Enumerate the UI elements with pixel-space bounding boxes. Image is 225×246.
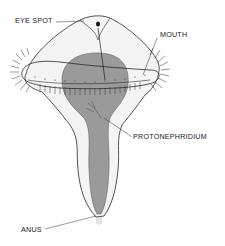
label-mouth: MOUTH — [160, 30, 187, 39]
label-anus: ANUS — [21, 225, 42, 234]
label-protonephridium: PROTONEPHRIDIUM — [133, 132, 207, 141]
trochophore-diagram — [0, 0, 225, 246]
label-eye-spot: EYE SPOT — [15, 16, 53, 25]
eye-spot-icon — [96, 21, 100, 26]
